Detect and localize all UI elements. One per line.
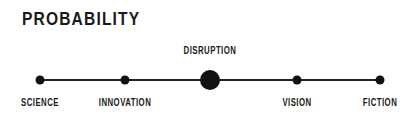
label-fiction: FICTION <box>363 97 397 108</box>
label-innovation: INNOVATION <box>99 97 151 108</box>
node-fiction <box>376 76 385 85</box>
label-disruption: DISRUPTION <box>184 45 237 56</box>
label-vision: VISION <box>282 97 311 108</box>
label-science: SCIENCE <box>21 97 59 108</box>
node-science <box>36 76 45 85</box>
node-vision <box>293 76 302 85</box>
node-disruption <box>200 70 220 90</box>
diagram-title: PROBABILITY <box>22 8 140 30</box>
node-innovation <box>121 76 130 85</box>
